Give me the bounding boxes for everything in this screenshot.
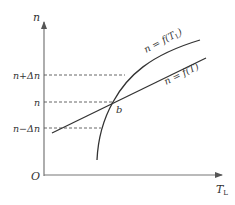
- level-label-mid: n: [34, 97, 40, 108]
- engine-line-label: n = f(T): [162, 60, 201, 86]
- y-axis-label: n: [33, 11, 40, 24]
- speed-torque-diagram: n O TL n+Δn n n−Δn n = f(TL) n = f(T) b: [0, 0, 235, 205]
- load-curve-label: n = f(TL): [142, 25, 185, 56]
- level-label-upper: n+Δn: [13, 70, 40, 81]
- origin-label: O: [31, 170, 40, 183]
- x-axis-label: TL: [216, 183, 228, 197]
- intersection-label: b: [116, 104, 122, 115]
- load-curve: [97, 40, 200, 160]
- level-label-lower: n−Δn: [13, 123, 40, 134]
